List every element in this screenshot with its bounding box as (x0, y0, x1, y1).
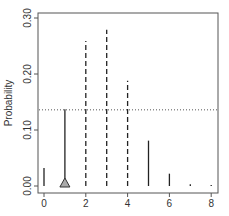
x-tick-label: 2 (83, 198, 89, 209)
triangle-marker-icon (60, 178, 70, 187)
y-axis-title: Probability (3, 80, 14, 127)
y-tick-label: 0.00 (22, 176, 33, 196)
y-tick-label: 0.10 (22, 120, 33, 140)
x-tick-label: 6 (167, 198, 173, 209)
x-tick-label: 8 (208, 198, 214, 209)
y-tick-label: 0.30 (22, 8, 33, 28)
plot-area: 0.000.100.200.3002468 (22, 8, 218, 209)
y-tick-label: 0.20 (22, 64, 33, 84)
x-tick-label: 4 (125, 198, 131, 209)
x-tick-label: 0 (41, 198, 47, 209)
probability-chart: 0.000.100.200.3002468 Probability (0, 0, 229, 216)
